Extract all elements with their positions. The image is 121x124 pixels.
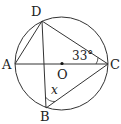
angle-arc-b <box>46 97 56 102</box>
label-c: C <box>110 57 120 72</box>
angle-label-c: 33° <box>72 49 93 63</box>
angle-label-x: x <box>51 83 58 97</box>
geometry-diagram: D A C O B 33° x <box>0 0 121 124</box>
label-b: B <box>40 109 50 124</box>
label-o: O <box>57 67 68 82</box>
segment-ad <box>15 21 42 64</box>
label-a: A <box>1 57 12 72</box>
center-point-o <box>60 62 63 65</box>
label-d: D <box>31 4 41 19</box>
angle-arc-c <box>96 58 98 65</box>
